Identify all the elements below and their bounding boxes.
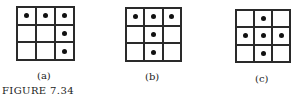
panel-c-grid: [235, 9, 291, 63]
grid-cell: [55, 7, 74, 25]
grid-cell: [254, 45, 272, 62]
grid-cell: [55, 25, 74, 43]
panel-b-grid: [125, 7, 182, 62]
figure-caption: FIGURE 7.34: [2, 85, 74, 96]
dot-icon: [62, 31, 67, 36]
dot-icon: [261, 16, 266, 21]
grid-cell: [272, 10, 290, 27]
grid-cell: [236, 10, 254, 27]
grid-cell: [17, 25, 36, 43]
dot-icon: [151, 32, 156, 37]
grid-cell: [254, 10, 272, 27]
dot-icon: [62, 13, 67, 18]
panel-b-label: (b): [145, 71, 159, 82]
grid-cell: [126, 26, 144, 44]
grid-cell: [144, 26, 162, 44]
grid-cell: [144, 43, 162, 61]
dot-icon: [43, 13, 48, 18]
grid-cell: [17, 7, 36, 25]
dot-icon: [279, 33, 284, 38]
dot-icon: [169, 14, 174, 19]
grid-cell: [36, 25, 55, 43]
grid-cell: [272, 27, 290, 44]
grid-cell: [126, 43, 144, 61]
grid-cell: [36, 7, 55, 25]
panel-c-label: (c): [255, 73, 268, 84]
dot-icon: [151, 50, 156, 55]
dot-icon: [261, 33, 266, 38]
grid-cell: [17, 42, 36, 60]
grid-cell: [36, 42, 55, 60]
grid-cell: [144, 8, 162, 26]
grid-cell: [272, 45, 290, 62]
dot-icon: [261, 51, 266, 56]
dot-icon: [151, 14, 156, 19]
dot-icon: [62, 49, 67, 54]
grid-cell: [126, 8, 144, 26]
grid-cell: [55, 42, 74, 60]
grid-cell: [163, 43, 181, 61]
grid-cell: [236, 27, 254, 44]
panel-a-grid: [16, 6, 75, 61]
dot-icon: [24, 13, 29, 18]
grid-cell: [254, 27, 272, 44]
grid-cell: [163, 26, 181, 44]
grid-cell: [236, 45, 254, 62]
dot-icon: [243, 33, 248, 38]
grid-cell: [163, 8, 181, 26]
dot-icon: [133, 14, 138, 19]
panel-a-label: (a): [37, 70, 51, 81]
